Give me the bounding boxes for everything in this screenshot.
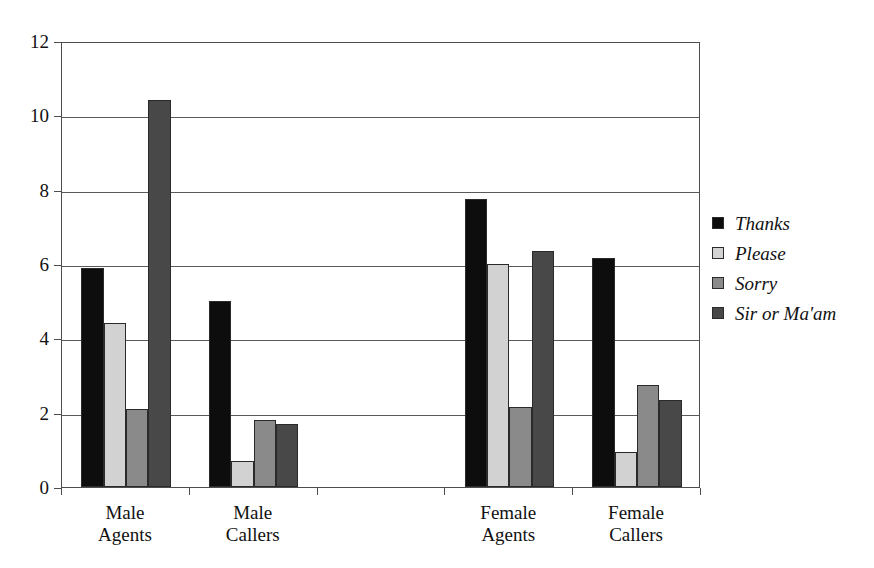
plot-area — [61, 42, 700, 488]
legend-swatch-icon — [712, 277, 724, 289]
bar — [509, 407, 531, 487]
bar — [231, 461, 253, 487]
y-tick-mark — [54, 116, 61, 117]
y-tick-mark — [54, 488, 61, 489]
legend-swatch-icon — [712, 247, 724, 259]
y-tick-mark — [54, 414, 61, 415]
y-tick-label: 12 — [30, 32, 49, 51]
x-tick-mark — [700, 488, 701, 495]
x-tick-mark — [444, 488, 445, 495]
x-tick-mark — [189, 488, 190, 495]
legend-label: Thanks — [735, 214, 790, 233]
legend-swatch-icon — [712, 307, 724, 319]
x-category-label: Female Callers — [572, 502, 700, 546]
x-category-label: Male Callers — [189, 502, 317, 546]
y-tick-label: 6 — [40, 255, 50, 274]
y-tick-label: 2 — [40, 404, 50, 423]
bar — [104, 323, 126, 487]
bar — [81, 268, 103, 487]
bar — [615, 452, 637, 487]
y-tick-label: 4 — [40, 329, 50, 348]
bar — [487, 264, 509, 487]
y-tick-mark — [54, 42, 61, 43]
bar-chart: 024681012 Male AgentsMale CallersFemale … — [0, 0, 874, 568]
bar — [254, 420, 276, 487]
bar — [659, 400, 681, 487]
bar — [209, 301, 231, 487]
bar — [148, 100, 170, 487]
chart-legend: ThanksPleaseSorrySir or Ma'am — [712, 208, 872, 328]
bar — [637, 385, 659, 487]
y-tick-label: 10 — [30, 106, 49, 125]
legend-item: Sir or Ma'am — [712, 298, 872, 328]
bar — [532, 251, 554, 487]
bar — [126, 409, 148, 487]
legend-label: Sir or Ma'am — [735, 304, 836, 323]
legend-item: Please — [712, 238, 872, 268]
y-tick-mark — [54, 265, 61, 266]
x-tick-mark — [572, 488, 573, 495]
bar — [276, 424, 298, 487]
x-category-label: Male Agents — [61, 502, 189, 546]
legend-label: Sorry — [735, 274, 777, 293]
legend-swatch-icon — [712, 217, 724, 229]
y-tick-label: 0 — [40, 478, 50, 497]
x-category-label: Female Agents — [444, 502, 572, 546]
bar — [592, 258, 614, 487]
legend-label: Please — [735, 244, 786, 263]
legend-item: Thanks — [712, 208, 872, 238]
y-tick-mark — [54, 191, 61, 192]
y-tick-label: 8 — [40, 181, 50, 200]
y-tick-mark — [54, 339, 61, 340]
bar — [465, 199, 487, 487]
x-tick-mark — [61, 488, 62, 495]
legend-item: Sorry — [712, 268, 872, 298]
x-tick-mark — [317, 488, 318, 495]
